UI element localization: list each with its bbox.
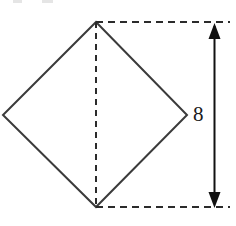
crop-artifact-left [13,0,22,3]
diagram-canvas: 8 [0,0,236,226]
dimension-arrowhead-bottom [209,192,221,208]
dimension-value-label: 8 [193,104,204,125]
crop-artifact-right [42,0,53,3]
dimension-arrowhead-top [209,23,221,39]
